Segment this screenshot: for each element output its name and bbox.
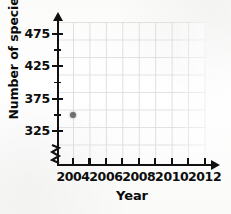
y-tick-minor <box>54 82 61 84</box>
y-tick-major <box>52 98 63 100</box>
axis-break-zigzag-icon <box>50 144 66 164</box>
x-tick <box>121 158 123 166</box>
y-tick-major <box>52 130 63 132</box>
x-tick <box>105 158 107 166</box>
x-axis-title: Year <box>58 188 206 203</box>
x-tick <box>204 158 206 166</box>
y-tick-label: 325 <box>14 123 50 138</box>
x-axis-tick-labels: 20042006200820102012 <box>0 169 231 187</box>
y-axis-title: Number of species <box>6 0 21 120</box>
x-tick-label: 2006 <box>89 169 122 184</box>
x-tick <box>138 158 140 166</box>
data-point <box>70 112 76 118</box>
x-tick <box>72 158 74 166</box>
x-tick-label: 2010 <box>155 169 188 184</box>
y-tick-minor <box>54 49 61 51</box>
x-axis-line <box>57 164 214 166</box>
x-tick <box>187 158 189 166</box>
x-tick <box>154 158 156 166</box>
x-tick <box>88 158 90 166</box>
arrow-up-icon <box>53 12 63 21</box>
y-tick-major <box>52 65 63 67</box>
plot-area <box>58 22 206 162</box>
x-tick-label: 2004 <box>56 169 89 184</box>
x-tick-label: 2012 <box>188 169 221 184</box>
x-tick <box>171 158 173 166</box>
y-tick-major <box>52 33 63 35</box>
y-tick-minor <box>54 114 61 116</box>
x-tick-label: 2008 <box>122 169 155 184</box>
grid-fade-overlay <box>58 22 206 162</box>
scatter-plot-figure: 325375425475 20042006200820102012 Number… <box>0 0 231 214</box>
